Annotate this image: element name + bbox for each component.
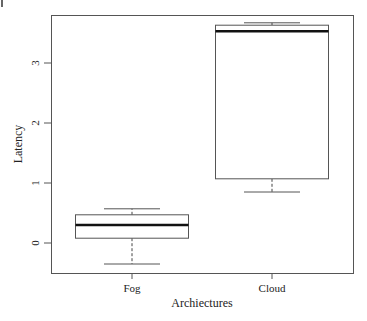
x-tick-label-cloud: Cloud — [259, 282, 286, 294]
y-tick-label: 3 — [29, 60, 41, 66]
iqr-box — [216, 25, 329, 179]
boxes-group — [76, 23, 329, 264]
x-axis-title: Archiectures — [171, 296, 233, 310]
y-axis: 0123 — [29, 60, 51, 246]
iqr-box — [76, 215, 189, 238]
y-tick-label: 1 — [29, 180, 41, 186]
y-axis-title: Latency — [11, 125, 25, 164]
box-cloud — [216, 23, 329, 192]
x-tick-label-fog: Fog — [123, 282, 141, 294]
y-tick-label: 2 — [29, 120, 41, 126]
box-fog — [76, 209, 189, 264]
x-axis: FogCloud — [123, 273, 286, 294]
boxplot-chart: 0123 FogCloud Archiectures Latency — [0, 0, 367, 321]
y-tick-label: 0 — [29, 240, 41, 246]
